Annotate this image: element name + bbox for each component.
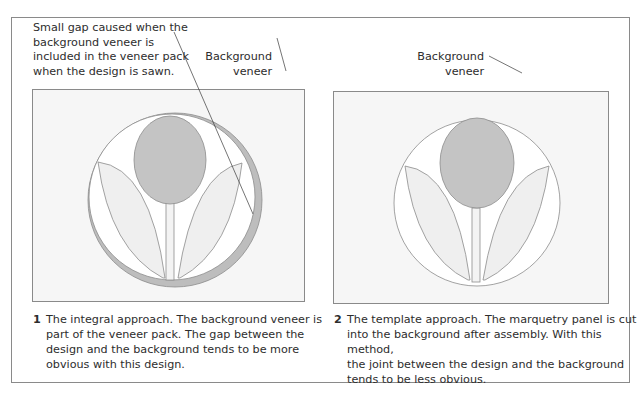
caption-line: The template approach. The marquetry pan…	[347, 312, 642, 327]
caption-line: part of the veneer pack. The gap between…	[46, 327, 322, 342]
caption-line: design and the background tends to be mo…	[46, 342, 322, 357]
caption-template: 2 The template approach. The marquetry p…	[347, 312, 642, 387]
background-veneer-label-line: veneer	[200, 65, 272, 80]
gap-annotation-line: when the design is sawn.	[33, 65, 189, 80]
gap-annotation-line: Small gap caused when the	[33, 21, 189, 36]
caption-line: The integral approach. The background ve…	[46, 312, 322, 327]
caption-number: 1	[33, 312, 41, 327]
gap-annotation-line: background veneer is	[33, 36, 189, 51]
caption-line: obvious with this design.	[46, 357, 322, 372]
background-veneer-label-line: Background	[200, 50, 272, 65]
background-veneer-label-line: veneer	[412, 65, 484, 80]
gap-annotation: Small gap caused when the background ven…	[33, 21, 189, 79]
background-veneer-label-2: Background veneer	[412, 50, 484, 79]
caption-number: 2	[334, 312, 342, 327]
gap-annotation-line: included in the veneer pack	[33, 50, 189, 65]
caption-line: tends to be less obvious.	[347, 372, 642, 387]
caption-line: the joint between the design and the bac…	[347, 357, 642, 372]
background-veneer-label-line: Background	[412, 50, 484, 65]
panel-template-approach	[333, 91, 609, 304]
caption-line: into the background after assembly. With…	[347, 327, 642, 357]
background-veneer-label-1: Background veneer	[200, 50, 272, 79]
panel-integral-approach	[32, 89, 305, 302]
caption-integral: 1 The integral approach. The background …	[46, 312, 322, 372]
